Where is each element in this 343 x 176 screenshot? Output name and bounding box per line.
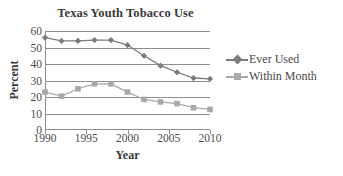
- y-tick-label: 50: [31, 42, 43, 54]
- x-tick-label: 2000: [116, 132, 139, 144]
- data-point-diamond: [174, 69, 180, 75]
- legend-item[interactable]: Within Month: [226, 69, 338, 84]
- data-point-square: [191, 105, 197, 111]
- x-axis-title: Year: [45, 148, 210, 163]
- chart-container: Texas Youth Tobacco Use Percent 01020304…: [0, 0, 343, 176]
- data-point-diamond: [42, 35, 48, 41]
- plot-area: 0102030405060 19901995200020052010: [45, 31, 210, 130]
- data-point-diamond: [91, 37, 97, 43]
- data-point-diamond: [157, 63, 163, 69]
- data-point-diamond: [75, 38, 81, 44]
- legend-item[interactable]: Ever Used: [226, 52, 338, 67]
- data-point-square: [207, 107, 213, 113]
- series-line: [45, 84, 210, 110]
- legend-diamond-icon: [226, 54, 248, 65]
- y-tick-label: 60: [31, 25, 43, 37]
- x-tick-label: 1995: [75, 132, 98, 144]
- chart-legend: Ever UsedWithin Month: [226, 52, 338, 86]
- data-point-square: [92, 81, 98, 87]
- data-point-square: [42, 89, 48, 95]
- data-point-diamond: [207, 76, 213, 82]
- y-tick-label: 30: [31, 75, 43, 87]
- data-point-diamond: [190, 75, 196, 81]
- series-layer: [45, 31, 210, 130]
- x-tick-label: 2005: [157, 132, 180, 144]
- data-point-square: [158, 99, 164, 105]
- legend-label: Within Month: [248, 69, 317, 84]
- legend-square-icon: [226, 71, 248, 82]
- x-tick-label: 1990: [34, 132, 57, 144]
- chart-title: Texas Youth Tobacco Use: [38, 6, 213, 21]
- data-point-diamond: [108, 37, 114, 43]
- y-tick-label: 10: [31, 108, 43, 120]
- data-point-square: [108, 81, 114, 87]
- data-point-square: [174, 101, 180, 107]
- y-axis-title: Percent: [7, 60, 22, 99]
- x-tick-label: 2010: [199, 132, 222, 144]
- data-point-diamond: [58, 38, 64, 44]
- data-point-square: [125, 89, 131, 95]
- data-point-square: [141, 97, 147, 103]
- data-point-square: [75, 86, 81, 92]
- legend-label: Ever Used: [248, 52, 299, 67]
- data-point-square: [59, 93, 65, 99]
- y-tick-label: 20: [31, 91, 43, 103]
- y-tick-label: 40: [31, 58, 43, 70]
